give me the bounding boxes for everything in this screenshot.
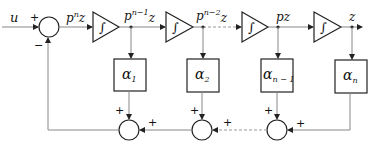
summer-1-top-sign: +	[115, 104, 124, 117]
signal-label-pn1z: pn−1z	[124, 8, 156, 25]
integrator-2	[166, 12, 193, 42]
signal-label-pn2z: pn−2z	[196, 8, 228, 25]
input-summing-junction	[39, 17, 59, 37]
integrator-4	[314, 12, 341, 42]
input-label: u	[10, 10, 18, 25]
feedback-summer-2	[192, 120, 212, 140]
summer-1-right-sign: +	[148, 116, 157, 129]
integrator-1	[93, 12, 119, 42]
input-minus-sign: −	[34, 39, 43, 52]
summer-2-right-sign: +	[223, 116, 232, 129]
integrator-3	[242, 12, 268, 42]
signal-label-pz: pz	[276, 10, 291, 24]
block-diagram: u + − pnz ∫ pn−1z ∫ pn−2z ∫ pz ∫ z α1 α2…	[0, 0, 379, 150]
feedback-summer-1	[119, 120, 139, 140]
integral-icon: ∫	[248, 20, 255, 35]
output-label: z	[348, 10, 356, 24]
summer-3-right-sign: +	[296, 117, 305, 130]
integral-icon: ∫	[99, 20, 106, 35]
signal-label-pnz: pnz	[66, 10, 86, 25]
input-plus-sign: +	[30, 11, 39, 24]
summer-2-top-sign: +	[190, 104, 199, 117]
main-feedback-line	[48, 38, 119, 130]
integral-icon: ∫	[172, 20, 179, 35]
summer-3-top-sign: +	[264, 104, 273, 117]
feedback-summer-3	[267, 120, 287, 140]
integral-icon: ∫	[320, 20, 327, 35]
